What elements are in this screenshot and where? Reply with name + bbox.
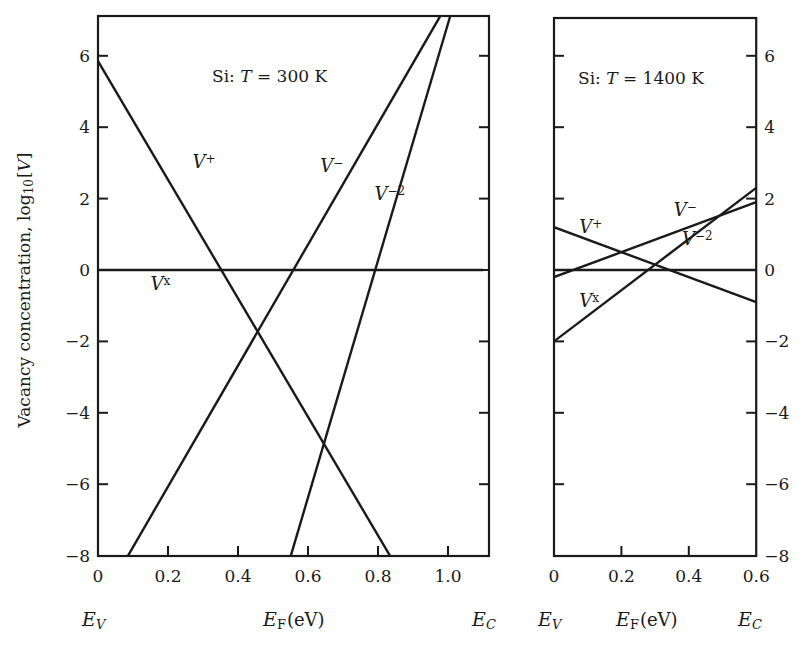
- chart-panel-300k: −8−6−4−2024600.20.40.60.81.0V+V−V−2VxSi:…: [65, 16, 496, 632]
- x-axis-label: EF(eV): [262, 608, 325, 632]
- series-label: V+: [193, 151, 216, 172]
- conduction-band-label: EC: [471, 608, 496, 632]
- y-tick-label: −6: [764, 474, 789, 494]
- y-tick-label: −4: [764, 403, 789, 423]
- y-tick-label: 2: [79, 189, 90, 209]
- y-tick-label: −8: [65, 546, 90, 566]
- x-tick-label: 0.4: [675, 566, 702, 586]
- plot-frame: [554, 18, 756, 556]
- x-tick-label: 0.8: [364, 566, 391, 586]
- y-tick-label: 0: [79, 260, 90, 280]
- y-tick-label: 4: [764, 117, 775, 137]
- x-tick-label: 0.6: [294, 566, 321, 586]
- y-axis-label-text: Vacancy concentration, log10[V]: [14, 153, 36, 429]
- y-tick-label: 6: [764, 46, 775, 66]
- panel-title: Si: T = 1400 K: [578, 68, 704, 88]
- series-lines: [554, 188, 756, 342]
- y-tick-label: −6: [65, 474, 90, 494]
- x-axis-label: EF(eV): [615, 608, 678, 632]
- chart-panel-1400k: −8−6−4−2024600.20.40.6V+V−V−2VxSi: T = 1…: [537, 18, 789, 632]
- series-label: V−2: [375, 183, 406, 204]
- y-tick-label: −4: [65, 403, 90, 423]
- y-tick-label: −8: [764, 546, 789, 566]
- x-tick-label: 0.6: [743, 566, 770, 586]
- series-line-vminus2: [291, 17, 450, 556]
- defect-concentration-figure: −8−6−4−2024600.20.40.60.81.0V+V−V−2VxSi:…: [0, 0, 804, 650]
- series-line-vplus: [98, 61, 390, 555]
- y-tick-label: 2: [764, 189, 775, 209]
- valence-band-label: EV: [81, 608, 107, 632]
- x-tick-label: 0.4: [224, 566, 251, 586]
- y-tick-label: 6: [79, 46, 90, 66]
- x-tick-label: 0: [549, 566, 560, 586]
- valence-band-label: EV: [537, 608, 563, 632]
- x-tick-label: 1.0: [434, 566, 461, 586]
- series-label: V−2: [682, 228, 713, 249]
- x-tick-label: 0.2: [608, 566, 635, 586]
- series-label: V−: [674, 199, 697, 220]
- panel-title: Si: T = 300 K: [212, 66, 327, 86]
- x-tick-label: 0.2: [154, 566, 181, 586]
- y-tick-label: 4: [79, 117, 90, 137]
- y-tick-label: 0: [764, 260, 775, 280]
- series-label: V−: [320, 155, 343, 176]
- y-tick-label: −2: [764, 331, 789, 351]
- conduction-band-label: EC: [737, 608, 762, 632]
- x-tick-label: 0: [93, 566, 104, 586]
- y-tick-label: −2: [65, 331, 90, 351]
- series-line-vminus: [128, 17, 440, 556]
- series-label: V+: [579, 216, 602, 237]
- y-axis-label: Vacancy concentration, log10[V]: [14, 153, 36, 429]
- series-label: Vx: [151, 273, 171, 294]
